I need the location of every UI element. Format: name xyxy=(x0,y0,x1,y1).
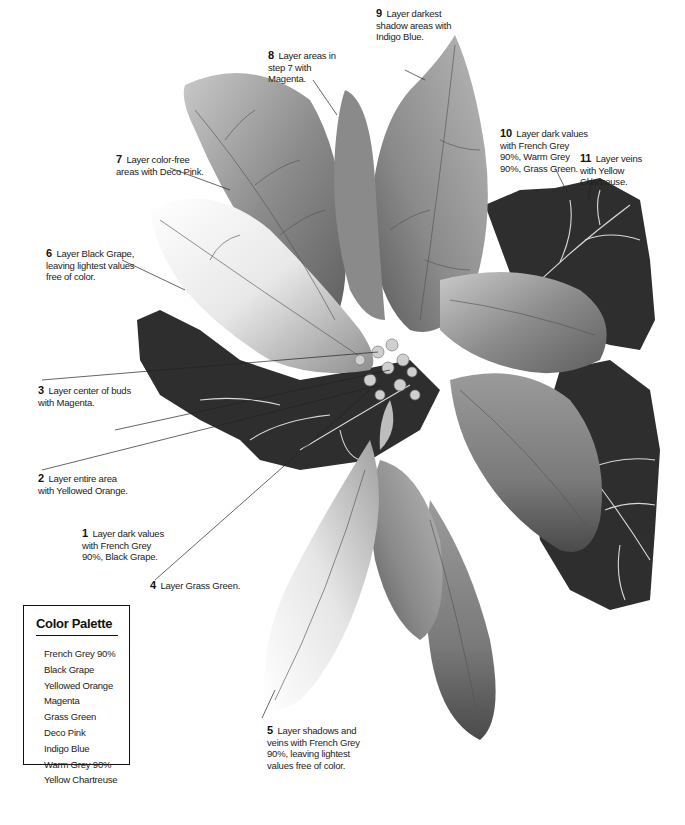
step-number: 1 xyxy=(82,527,88,539)
step-number: 5 xyxy=(267,724,273,736)
callout-step-9: 9 Layer darkest shadow areas with Indigo… xyxy=(376,8,466,43)
step-number: 3 xyxy=(38,384,44,396)
callout-step-8: 8 Layer areas in step 7 with Magenta. xyxy=(268,50,348,85)
color-palette-box: Color Palette French Grey 90% Black Grap… xyxy=(23,605,130,765)
palette-title: Color Palette xyxy=(36,616,112,631)
palette-item: Warm Grey 90% xyxy=(44,757,117,773)
step-number: 10 xyxy=(500,127,512,139)
step-text: Layer center of buds with Magenta. xyxy=(38,385,131,408)
step-text: Layer shadows and veins with French Grey… xyxy=(267,725,360,771)
step-number: 8 xyxy=(268,49,274,61)
step-number: 7 xyxy=(116,153,122,165)
palette-item: Deco Pink xyxy=(44,725,117,741)
callout-step-5: 5 Layer shadows and veins with French Gr… xyxy=(267,725,375,771)
step-text: Layer entire area with Yellowed Orange. xyxy=(38,473,128,496)
palette-item: Yellowed Orange xyxy=(44,678,117,694)
palette-item: French Grey 90% xyxy=(44,646,117,662)
callout-step-6: 6 Layer Black Grape, leaving lightest va… xyxy=(46,248,136,283)
callout-step-11: 11 Layer veins with Yellow Chartreuse. xyxy=(580,153,660,188)
callout-step-3: 3 Layer center of buds with Magenta. xyxy=(38,385,138,408)
step-text: Layer Black Grape, leaving lightest valu… xyxy=(46,248,134,282)
callout-step-1: 1 Layer dark values with French Grey 90%… xyxy=(82,528,168,563)
step-number: 2 xyxy=(38,472,44,484)
lower-mid-bract xyxy=(371,460,443,640)
step-text: Layer dark values with French Grey 90%, … xyxy=(82,528,164,562)
callout-step-10: 10 Layer dark values with French Grey 90… xyxy=(500,128,590,174)
step-text: Layer Grass Green. xyxy=(160,580,240,591)
palette-item: Black Grape xyxy=(44,662,117,678)
palette-title-underline xyxy=(36,635,118,636)
step-number: 11 xyxy=(580,152,591,164)
step-text: Layer darkest shadow areas with Indigo B… xyxy=(376,8,451,42)
step-number: 9 xyxy=(376,7,382,19)
step-text: Layer dark values with French Grey 90%, … xyxy=(500,128,588,174)
callout-step-7: 7 Layer color-free areas with Deco Pink. xyxy=(116,154,206,177)
palette-list: French Grey 90% Black Grape Yellowed Ora… xyxy=(44,646,117,788)
callout-step-4: 4 Layer Grass Green. xyxy=(150,580,250,592)
palette-item: Yellow Chartreuse xyxy=(44,772,117,788)
step-number: 4 xyxy=(150,579,156,591)
step-number: 6 xyxy=(46,247,52,259)
palette-item: Indigo Blue xyxy=(44,741,117,757)
step-text: Layer areas in step 7 with Magenta. xyxy=(268,50,336,84)
step-text: Layer color-free areas with Deco Pink. xyxy=(116,154,204,177)
palette-item: Magenta xyxy=(44,693,117,709)
callout-step-2: 2 Layer entire area with Yellowed Orange… xyxy=(38,473,128,496)
palette-item: Grass Green xyxy=(44,709,117,725)
